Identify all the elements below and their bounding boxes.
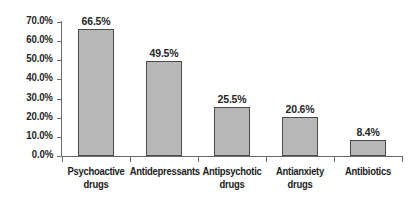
category-label-line: drugs	[62, 178, 130, 191]
bar[interactable]	[214, 107, 250, 156]
category-label: Antianxietydrugs	[262, 165, 338, 190]
x-axis-line	[61, 156, 403, 157]
bar-slot: 8.4%	[334, 22, 402, 156]
y-axis-tick-label: 70.0%	[27, 14, 53, 26]
bar-value-label: 66.5%	[82, 15, 111, 27]
bar-value-label: 49.5%	[150, 47, 179, 59]
y-axis-tick-label: 20.0%	[27, 110, 53, 122]
x-axis-tick-mark	[334, 157, 335, 162]
category-label-line: Psychoactive	[62, 165, 130, 178]
x-axis-tick-mark	[130, 157, 131, 162]
x-axis-tick-mark	[62, 157, 63, 162]
bar-value-label: 8.4%	[356, 126, 379, 138]
y-axis-tick-label: 60.0%	[27, 33, 53, 45]
bar[interactable]	[282, 117, 318, 156]
y-axis-tick-label: 10.0%	[27, 129, 53, 141]
bar[interactable]	[78, 29, 114, 156]
bar[interactable]	[350, 140, 386, 156]
bar-slot: 49.5%	[130, 22, 198, 156]
category-label: Antipsychoticdrugs	[194, 165, 270, 190]
category-label: Antidepressants	[126, 165, 202, 178]
category-label-line: Antipsychotic	[198, 165, 266, 178]
y-axis-tick-label: 40.0%	[27, 71, 53, 83]
bar-slot: 66.5%	[62, 22, 130, 156]
category-label-line: Antianxiety	[266, 165, 334, 178]
bar-slot: 25.5%	[198, 22, 266, 156]
bar-chart: 70.0%60.0%50.0%40.0%30.0%20.0%10.0%0.0% …	[0, 0, 415, 205]
y-axis-tick-label: 0.0%	[32, 148, 53, 160]
bar-value-label: 20.6%	[286, 103, 315, 115]
x-axis-tick-mark	[402, 157, 403, 162]
category-label-line: Antidepressants	[130, 165, 198, 178]
y-axis-tick-label: 30.0%	[27, 91, 53, 103]
bar-value-label: 25.5%	[218, 93, 247, 105]
y-axis-tick-label: 50.0%	[27, 52, 53, 64]
bar[interactable]	[146, 61, 182, 156]
x-axis-tick-mark	[198, 157, 199, 162]
category-label-line: drugs	[266, 178, 334, 191]
category-label: Psychoactivedrugs	[58, 165, 134, 190]
category-label-line: Antibiotics	[334, 165, 402, 178]
bar-slot: 20.6%	[266, 22, 334, 156]
plot-area: 66.5%49.5%25.5%20.6%8.4%	[62, 22, 402, 156]
x-axis-tick-mark	[266, 157, 267, 162]
category-label: Antibiotics	[330, 165, 406, 178]
category-label-line: drugs	[198, 178, 266, 191]
